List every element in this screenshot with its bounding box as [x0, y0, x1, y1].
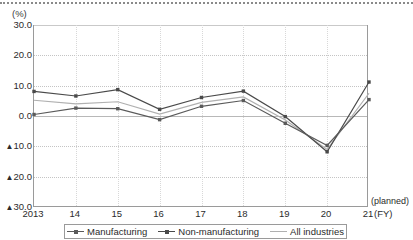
legend-label: All industries — [290, 226, 344, 237]
legend-line-marker-icon — [67, 228, 84, 236]
chart-legend: Manufacturing Non-manufacturing All indu… — [64, 224, 347, 239]
x-axis-tick: 15 — [111, 208, 122, 219]
y-axis-tick: 10.0 — [0, 80, 32, 91]
series-layer — [34, 25, 369, 207]
series-marker — [32, 113, 35, 116]
x-axis-tick: 14 — [70, 208, 81, 219]
y-axis-tick: ▲20.0 — [0, 171, 32, 182]
plot-area — [33, 25, 368, 207]
series-marker — [116, 88, 119, 91]
series-marker — [158, 108, 161, 111]
y-axis-tick: 20.0 — [0, 49, 32, 60]
x-axis-tick: 16 — [153, 208, 164, 219]
series-marker — [242, 89, 245, 92]
y-axis-tick-labels: 30.020.010.00.0▲10.0▲20.0▲30.0 — [0, 25, 32, 207]
y-axis-tick: ▲10.0 — [0, 140, 32, 151]
fy-axis-label: (FY) — [374, 208, 392, 219]
x-axis-tick: 21 — [363, 208, 374, 219]
series-marker — [74, 106, 77, 109]
series-marker — [284, 122, 287, 125]
legend-item-all-industries[interactable]: All industries — [270, 226, 344, 237]
series-marker — [325, 144, 328, 147]
y-axis-tick: 0.0 — [0, 110, 32, 121]
x-axis-tick: 18 — [237, 208, 248, 219]
legend-item-non-manufacturing[interactable]: Non-manufacturing — [158, 226, 259, 237]
series-marker — [367, 98, 370, 101]
series-marker — [200, 96, 203, 99]
y-axis-unit-label: (%) — [12, 8, 27, 19]
planned-annotation: (planned) — [371, 196, 409, 206]
x-axis-tick: 19 — [279, 208, 290, 219]
x-axis-tick-labels: 20131415161718192021 — [0, 208, 413, 222]
series-marker — [116, 107, 119, 110]
y-axis-tick: 30.0 — [0, 19, 32, 30]
series-marker — [32, 90, 35, 93]
series-marker — [74, 94, 77, 97]
legend-label: Non-manufacturing — [178, 226, 259, 237]
top-dotted-divider — [0, 2, 413, 4]
series-marker — [284, 115, 287, 118]
legend-label: Manufacturing — [87, 226, 147, 237]
x-axis-tick: 17 — [195, 208, 206, 219]
series-marker — [242, 99, 245, 102]
x-axis-tick: 20 — [321, 208, 332, 219]
chart-root: (%) 30.020.010.00.0▲10.0▲20.0▲30.0 20131… — [0, 0, 413, 240]
legend-line-marker-icon — [158, 228, 175, 236]
series-marker — [200, 105, 203, 108]
x-axis-tick: 2013 — [22, 208, 43, 219]
legend-item-manufacturing[interactable]: Manufacturing — [67, 226, 147, 237]
legend-line-icon — [270, 228, 287, 236]
series-marker — [158, 118, 161, 121]
series-marker — [367, 80, 370, 83]
series-marker — [325, 150, 328, 153]
